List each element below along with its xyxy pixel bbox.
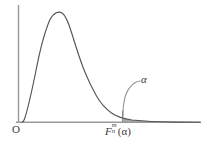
critical-value-indices: mn xyxy=(112,124,118,135)
density-curve xyxy=(22,12,200,122)
alpha-label: α xyxy=(141,74,147,85)
alpha-leader-line xyxy=(123,81,140,118)
critical-value-label: Fmn(α) xyxy=(105,124,131,137)
critical-value-argument: (α) xyxy=(118,125,131,137)
figure-canvas xyxy=(0,0,208,144)
tail-area-shading xyxy=(18,12,200,122)
f-distribution-figure: O Fmn(α) α xyxy=(0,0,208,144)
critical-value-base: F xyxy=(105,125,112,137)
origin-label: O xyxy=(12,124,20,135)
tail-area-path xyxy=(18,12,200,122)
critical-value-subscript: n xyxy=(112,128,115,135)
